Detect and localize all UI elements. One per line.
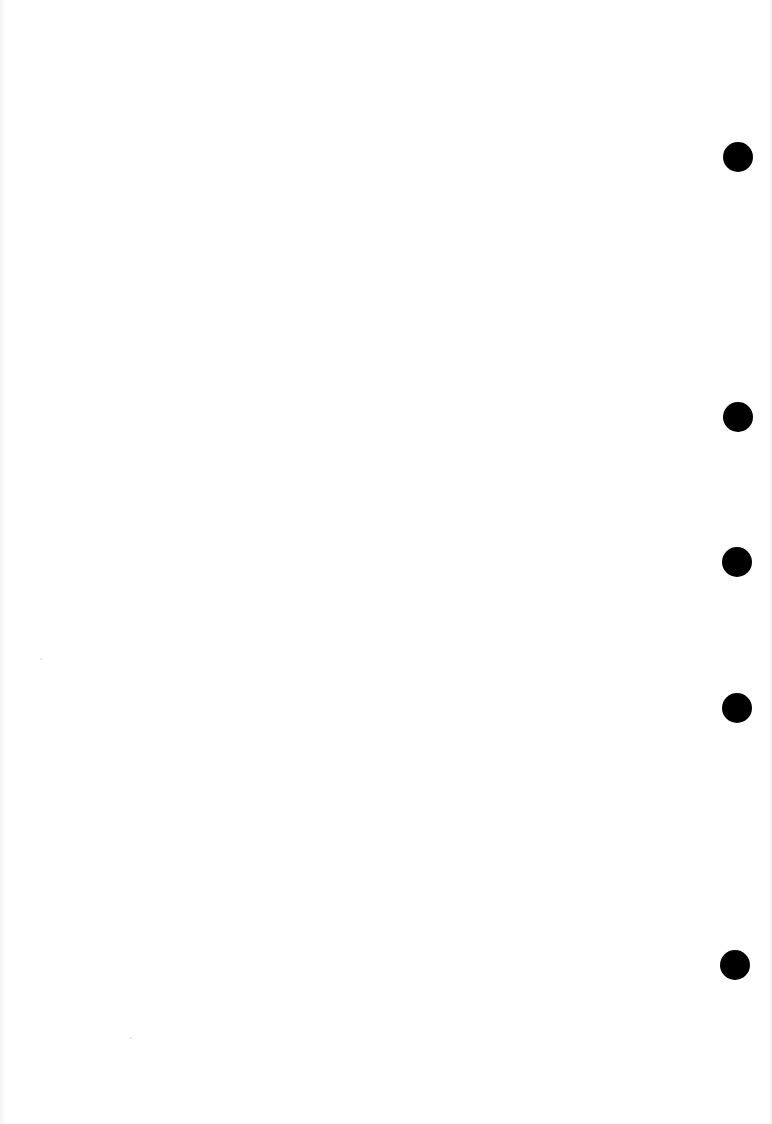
punch-hole-3 (722, 547, 752, 577)
punch-hole-5 (720, 950, 750, 980)
punch-hole-2 (723, 402, 753, 432)
blank-page (0, 0, 772, 1124)
page-left-edge-shadow (0, 0, 6, 1124)
scan-speck (40, 658, 43, 660)
punch-hole-4 (722, 693, 752, 723)
punch-hole-1 (723, 142, 753, 172)
scan-speck (129, 1037, 132, 1039)
